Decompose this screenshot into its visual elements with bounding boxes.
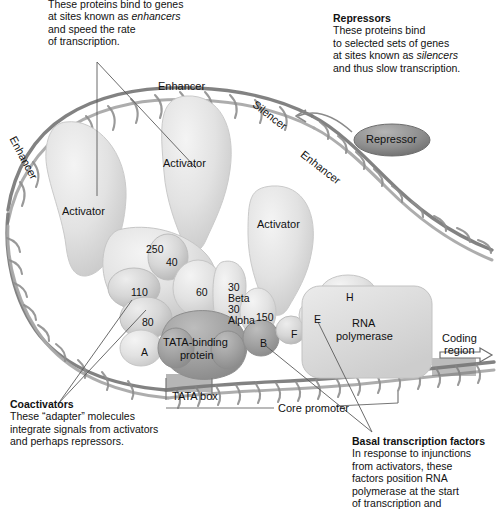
coactivators-callout-line-3: and perhaps repressors. [10, 435, 225, 447]
repressors-callout: Repressors These proteins bind to select… [333, 12, 498, 74]
repressors-callout-line-3: at sites known as silencers [333, 49, 498, 61]
repressors-callout-line-1: These proteins bind [333, 24, 498, 36]
mediator-subunit-label-250: 250 [146, 243, 164, 255]
tfii-subunit-label-f: F [291, 328, 297, 340]
protein-label-activator-top: Activator [163, 157, 206, 169]
coactivators-callout: Coactivators These “adapter” molecules i… [10, 398, 225, 448]
basal-factors-callout: Basal transcription factors In response … [352, 435, 498, 509]
mediator-subunit-label-80: 80 [142, 316, 154, 328]
basal-factors-callout-title: Basal transcription factors [352, 435, 498, 447]
dna-label-coding-region-line2: region [444, 344, 475, 356]
protein-label-activator-right: Activator [257, 218, 300, 230]
tfii-subunit-label-b: B [260, 337, 267, 349]
activator-top-shape [162, 96, 232, 252]
protein-label-rna-pol-line1: RNA [352, 317, 375, 329]
dna-label-coding-region-line1: Coding [442, 332, 477, 344]
activators-callout-line-3: and speed the rate [48, 23, 238, 35]
protein-label-rna-pol-line2: polymerase [336, 330, 393, 342]
repressors-callout-title: Repressors [333, 12, 498, 24]
activators-callout: These proteins bind to genes at sites kn… [48, 0, 238, 48]
mediator-subunit-label-150: 150 [256, 311, 274, 323]
basal-factors-callout-line-1: In response to injunctions [352, 447, 498, 459]
activators-italic-term: enhancers [131, 10, 180, 22]
basal-factors-callout-line-2: from activators, these [352, 460, 498, 472]
basal-factors-callout-line-3: factors position RNA [352, 472, 498, 484]
mediator-subunit-label-60: 60 [196, 286, 208, 298]
protein-label-repressor: Repressor [366, 133, 417, 145]
protein-label-tbp-line2: protein [180, 349, 214, 361]
repressors-italic-term: silencers [416, 49, 457, 61]
mediator-subunit-label-a: A [141, 346, 148, 358]
dna-label-enhancer-top: Enhancer [158, 80, 205, 92]
activators-callout-line-4: of transcription. [48, 35, 238, 47]
repressors-callout-line-2: to selected sets of genes [333, 37, 498, 49]
tfii-subunit-label-e: E [314, 313, 321, 325]
dna-label-tata-box: TATA box [172, 390, 218, 402]
basal-factors-callout-line-4: polymerase at the start [352, 485, 498, 497]
repressors-callout-line-4: and thus slow transcription. [333, 62, 498, 74]
tfii-subunit-label-h: H [346, 291, 354, 303]
activators-callout-line-2: at sites known as enhancers [48, 10, 238, 22]
mediator-subunit-label-40: 40 [166, 256, 178, 268]
coactivators-callout-line-2: integrate signals from activators [10, 423, 225, 435]
protein-label-tbp-line1: TATA-binding [163, 336, 228, 348]
dna-label-core-promoter: Core promoter [278, 402, 349, 414]
figure-canvas: These proteins bind to genes at sites kn… [0, 0, 498, 512]
tfii-subunit-label-alpha: Alpha [228, 314, 255, 326]
activators-callout-line-1: These proteins bind to genes [48, 0, 238, 10]
coactivators-callout-line-1: These “adapter” molecules [10, 410, 225, 422]
mediator-subunit-label-110: 110 [131, 286, 148, 298]
protein-label-activator-left: Activator [62, 205, 105, 217]
basal-factors-callout-line-5: of transcription and [352, 497, 498, 509]
coding-start-dna-patch [432, 358, 476, 376]
